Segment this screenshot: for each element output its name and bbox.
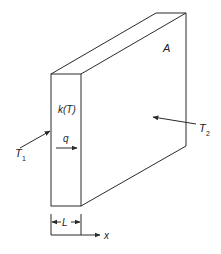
x-axis-label: x bbox=[103, 230, 110, 241]
t1-arrow bbox=[20, 131, 50, 148]
plane-wall-diagram: A k(T) q T 1 T 2 L x bbox=[0, 0, 221, 254]
thickness-label: L bbox=[62, 217, 68, 228]
area-label: A bbox=[162, 42, 170, 54]
t2-arrow bbox=[153, 117, 196, 124]
t2-subscript: 2 bbox=[206, 130, 210, 137]
t1-subscript: 1 bbox=[22, 155, 26, 162]
conductivity-label: k(T) bbox=[58, 104, 76, 115]
heat-flux-label: q bbox=[63, 133, 69, 144]
